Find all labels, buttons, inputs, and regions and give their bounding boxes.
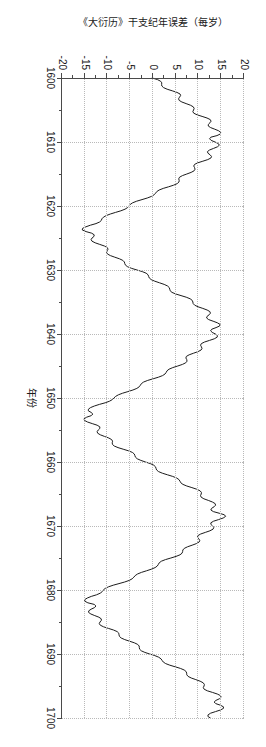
x-axis-tick — [57, 718, 62, 719]
gridline-horizontal — [129, 78, 130, 718]
y-axis-minor-tick — [232, 75, 233, 78]
gridline-vertical — [62, 654, 244, 655]
gridline-horizontal — [84, 78, 85, 718]
gridline-vertical — [62, 270, 244, 271]
x-axis-tick — [57, 462, 62, 463]
x-axis-title: 年份 — [25, 78, 40, 718]
x-axis-tick-label: 1600 — [45, 67, 56, 89]
y-axis-tick-label: -10 — [102, 56, 113, 70]
gridline-vertical — [62, 334, 244, 335]
gridline-vertical — [62, 462, 244, 463]
x-axis-tick — [57, 142, 62, 143]
y-axis-tick — [152, 73, 153, 78]
gridline-vertical — [62, 142, 244, 143]
x-axis-tick-label: 1610 — [45, 131, 56, 153]
x-axis-tick-label: 1660 — [45, 451, 56, 473]
gridline-vertical — [62, 398, 244, 399]
gridline-vertical — [62, 206, 244, 207]
gridline-horizontal — [220, 78, 221, 718]
gridline-horizontal — [175, 78, 176, 718]
x-axis-tick — [57, 526, 62, 527]
gridline-vertical — [62, 590, 244, 591]
x-axis-minor-tick — [59, 366, 62, 367]
x-axis-tick — [57, 270, 62, 271]
x-axis-tick — [57, 78, 62, 79]
y-axis-tick-label: 10 — [193, 59, 204, 70]
y-axis-minor-tick — [186, 75, 187, 78]
gridline-horizontal — [198, 78, 199, 718]
y-axis-tick — [243, 73, 244, 78]
x-axis-minor-tick — [59, 174, 62, 175]
gridline-horizontal — [107, 78, 108, 718]
rotated-figure-wrapper: 年份 《大衍历》干支纪年误差（每岁） 160016101620163016401… — [0, 0, 266, 747]
gridline-horizontal — [152, 78, 153, 718]
y-axis-minor-tick — [95, 75, 96, 78]
y-axis-line — [61, 78, 244, 79]
y-axis-tick — [84, 73, 85, 78]
x-axis-minor-tick — [59, 110, 62, 111]
gridline-horizontal — [243, 78, 244, 718]
x-axis-minor-tick — [59, 238, 62, 239]
y-axis-tick-label: 5 — [170, 64, 181, 70]
x-axis-tick — [57, 206, 62, 207]
y-axis-tick-label: -20 — [57, 56, 68, 70]
y-axis-tick — [129, 73, 130, 78]
x-axis-minor-tick — [59, 622, 62, 623]
x-axis-minor-tick — [59, 494, 62, 495]
x-axis-minor-tick — [59, 686, 62, 687]
y-axis-tick-label: 15 — [216, 59, 227, 70]
y-axis-minor-tick — [118, 75, 119, 78]
y-axis-tick-label: 0 — [148, 64, 159, 70]
x-axis-tick-label: 1680 — [45, 579, 56, 601]
x-axis-minor-tick — [59, 558, 62, 559]
y-axis-minor-tick — [163, 75, 164, 78]
x-axis-tick-label: 1700 — [45, 707, 56, 729]
y-axis-tick-label: -5 — [125, 61, 136, 70]
y-axis-minor-tick — [141, 75, 142, 78]
y-axis-tick-label: 20 — [239, 59, 250, 70]
y-axis-minor-tick — [209, 75, 210, 78]
x-axis-tick-label: 1640 — [45, 323, 56, 345]
gridline-vertical — [62, 718, 244, 719]
y-axis-tick-label: -15 — [79, 56, 90, 70]
x-axis-tick-label: 1690 — [45, 643, 56, 665]
chart-figure: 年份 《大衍历》干支纪年误差（每岁） 160016101620163016401… — [0, 0, 266, 747]
x-axis-tick — [57, 590, 62, 591]
x-axis-tick — [57, 654, 62, 655]
x-axis-tick-label: 1630 — [45, 259, 56, 281]
x-axis-tick-label: 1650 — [45, 387, 56, 409]
x-axis-tick-label: 1670 — [45, 515, 56, 537]
y-axis-tick — [175, 73, 176, 78]
plot-area — [62, 78, 244, 718]
x-axis-minor-tick — [59, 302, 62, 303]
y-axis-tick — [61, 73, 62, 78]
y-axis-tick — [220, 73, 221, 78]
y-axis-minor-tick — [72, 75, 73, 78]
y-axis-title: 《大衍历》干支纪年误差（每岁） — [62, 14, 244, 30]
y-axis-tick — [198, 73, 199, 78]
y-axis-tick — [107, 73, 108, 78]
chart-canvas: 年份 《大衍历》干支纪年误差（每岁） 160016101620163016401… — [0, 0, 266, 747]
x-axis-tick — [57, 334, 62, 335]
gridline-vertical — [62, 526, 244, 527]
x-axis-tick-label: 1620 — [45, 195, 56, 217]
x-axis-tick — [57, 398, 62, 399]
x-axis-minor-tick — [59, 430, 62, 431]
